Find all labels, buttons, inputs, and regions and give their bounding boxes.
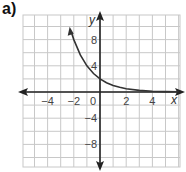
- x-tick-label: 2: [123, 95, 129, 107]
- y-tick-label: 8: [91, 34, 97, 46]
- x-tick-label: 4: [149, 95, 155, 107]
- x-tick-label: 0: [90, 95, 96, 107]
- x-tick-label: −4: [41, 95, 54, 107]
- y-tick-label: −4: [84, 112, 97, 124]
- graph: −4−202484−4−8 x y: [0, 0, 186, 172]
- x-tick-label: −2: [68, 95, 81, 107]
- y-axis-label: y: [88, 13, 96, 27]
- y-tick-label: 4: [91, 60, 97, 72]
- x-axis-label: x: [170, 93, 178, 107]
- y-tick-label: −8: [84, 138, 97, 150]
